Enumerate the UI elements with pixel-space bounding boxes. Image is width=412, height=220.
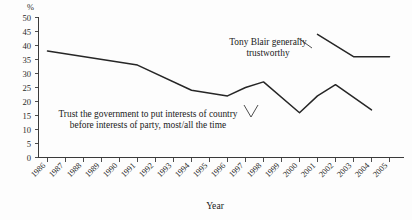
y-tick-label: 5 [27, 139, 31, 149]
y-tick-label: 0 [27, 153, 31, 163]
x-tick-marks [48, 158, 390, 163]
x-axis-title: Year [206, 200, 224, 211]
blair-annotation-line2: trustworthy [246, 48, 290, 58]
x-tick-label: 1990 [101, 161, 119, 179]
x-tick-label: 1998 [245, 161, 263, 179]
series-line-trust-government [48, 51, 372, 113]
y-tick-label: 45 [22, 27, 31, 37]
blair-annotation: Tony Blair generally trustworthy [229, 37, 312, 58]
x-tick-label: 2005 [371, 161, 389, 179]
y-tick-label: 15 [22, 111, 31, 121]
trust-annotation-leader-line [244, 105, 258, 117]
x-tick-label: 1993 [155, 161, 173, 179]
series-line-blair-trustworthy [318, 34, 390, 56]
blair-annotation-line1: Tony Blair generally [229, 37, 307, 47]
x-tick-label: 1999 [263, 161, 281, 179]
y-tick-label: 35 [22, 55, 31, 65]
y-tick-label: 10 [22, 125, 31, 135]
chart-canvas: % 50 45 40 35 30 25 20 15 10 5 [0, 0, 412, 220]
y-axis-unit-label: % [27, 3, 34, 12]
y-tick-marks [35, 18, 39, 158]
x-tick-label: 1991 [119, 161, 137, 179]
x-tick-label: 1994 [173, 160, 192, 179]
y-tick-label: 50 [22, 13, 31, 23]
x-tick-label: 1987 [47, 161, 65, 179]
x-tick-label: 2000 [281, 161, 299, 179]
x-tick-label: 1986 [29, 161, 47, 179]
trust-annotation-line2: before interests of party, most/all the … [70, 120, 226, 130]
x-tick-label: 1992 [137, 161, 155, 179]
x-tick-label: 1995 [191, 161, 209, 179]
x-tick-label: 2004 [353, 160, 372, 179]
x-tick-label: 1989 [83, 161, 101, 179]
y-tick-label: 40 [22, 41, 31, 51]
trust-annotation: Trust the government to put interests of… [58, 105, 258, 130]
x-tick-label: 2001 [299, 161, 317, 179]
y-tick-label: 30 [22, 69, 31, 79]
x-tick-labels: 1986 1987 1988 1989 1990 1991 1992 1993 … [29, 160, 389, 179]
y-tick-label: 25 [22, 83, 31, 93]
x-tick-label: 1997 [227, 161, 245, 179]
y-tick-label: 20 [22, 97, 31, 107]
trust-annotation-line1: Trust the government to put interests of… [58, 109, 237, 119]
y-tick-labels: 50 45 40 35 30 25 20 15 10 5 0 [22, 13, 31, 163]
chart-figure: % 50 45 40 35 30 25 20 15 10 5 [0, 0, 412, 220]
x-tick-label: 2002 [317, 161, 335, 179]
x-tick-label: 1988 [65, 161, 83, 179]
x-tick-label: 1996 [209, 161, 227, 179]
x-tick-label: 2003 [335, 161, 353, 179]
